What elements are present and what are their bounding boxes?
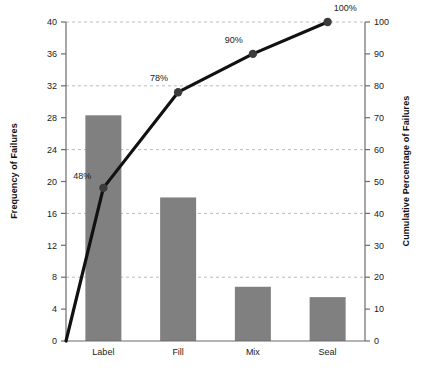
tick-label: 20 bbox=[47, 177, 57, 187]
point-label: 48% bbox=[73, 171, 91, 181]
plot-area: 0481216202428323640 01020304050607080901… bbox=[0, 0, 431, 385]
point-label: 90% bbox=[225, 35, 243, 45]
tick-label: 0 bbox=[52, 336, 57, 346]
tick-label: 100 bbox=[374, 17, 389, 27]
tick-label: 50 bbox=[374, 177, 384, 187]
tick-label: 70 bbox=[374, 113, 384, 123]
point-label: 78% bbox=[150, 73, 168, 83]
pareto-chart: Frequency of Failures Cumulative Percent… bbox=[0, 0, 431, 385]
y-axis-right-ticks: 0102030405060708090100 bbox=[365, 17, 389, 346]
category-label: Fill bbox=[172, 347, 184, 357]
bar bbox=[310, 297, 346, 341]
tick-label: 8 bbox=[52, 272, 57, 282]
category-label: Seal bbox=[319, 347, 337, 357]
bar bbox=[235, 287, 271, 341]
tick-label: 90 bbox=[374, 49, 384, 59]
tick-label: 32 bbox=[47, 81, 57, 91]
tick-label: 36 bbox=[47, 49, 57, 59]
tick-label: 12 bbox=[47, 241, 57, 251]
category-label: Mix bbox=[246, 347, 260, 357]
data-point-marker bbox=[174, 88, 182, 96]
tick-label: 40 bbox=[374, 209, 384, 219]
y-axis-left-ticks: 0481216202428323640 bbox=[47, 17, 66, 346]
tick-label: 80 bbox=[374, 81, 384, 91]
tick-label: 40 bbox=[47, 17, 57, 27]
category-label: Label bbox=[92, 347, 114, 357]
tick-label: 24 bbox=[47, 145, 57, 155]
data-point-marker bbox=[99, 184, 107, 192]
bar bbox=[85, 115, 121, 341]
data-point-marker bbox=[323, 18, 331, 26]
x-axis-category-labels: LabelFillMixSeal bbox=[92, 347, 336, 357]
data-point-marker bbox=[249, 50, 257, 58]
point-label: 100% bbox=[334, 3, 357, 13]
tick-label: 28 bbox=[47, 113, 57, 123]
tick-label: 60 bbox=[374, 145, 384, 155]
tick-label: 30 bbox=[374, 241, 384, 251]
tick-label: 4 bbox=[52, 304, 57, 314]
tick-label: 16 bbox=[47, 209, 57, 219]
tick-label: 0 bbox=[374, 336, 379, 346]
tick-label: 20 bbox=[374, 272, 384, 282]
tick-label: 10 bbox=[374, 304, 384, 314]
bar bbox=[160, 197, 196, 341]
